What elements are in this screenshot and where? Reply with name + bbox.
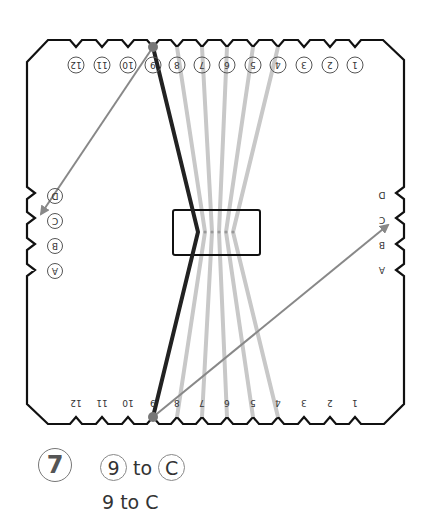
from-slot-label: 9	[107, 457, 119, 479]
step-number: 7	[47, 451, 64, 479]
knot-dots	[204, 231, 235, 234]
left-slot-labels: D C B A	[48, 189, 63, 279]
from-slot-badge: 9	[100, 454, 127, 481]
left-label-b: B	[52, 241, 58, 251]
step-number-badge: 7	[38, 448, 72, 482]
left-label-c: C	[52, 216, 58, 226]
bottom-label-6: 6	[224, 398, 230, 408]
connector-text: to	[133, 457, 152, 479]
to-slot-label: C	[165, 457, 178, 479]
bottom-label-2: 2	[327, 398, 333, 408]
bottom-label-1: 1	[352, 398, 358, 408]
bottom-label-8: 8	[174, 398, 180, 408]
top-label-6: 6	[224, 60, 230, 70]
top-label-4: 4	[275, 60, 281, 70]
top-label-8: 8	[174, 60, 180, 70]
right-label-d: D	[378, 190, 385, 200]
top-label-10: 10	[122, 60, 134, 70]
top-label-12: 12	[70, 60, 81, 70]
step-instruction-circled: 9 to C	[100, 454, 185, 481]
top-label-9: 9	[150, 60, 156, 70]
friendship-bracelet-loom-diagram: 1 2 3 4 5 6 7 8 9 10 11 12 1 2 3 4 5 6 7…	[0, 0, 427, 440]
right-label-a: A	[378, 265, 385, 275]
bottom-label-7: 7	[199, 398, 205, 408]
top-label-5: 5	[250, 60, 256, 70]
top-label-2: 2	[327, 60, 333, 70]
bottom-label-12: 12	[70, 398, 81, 408]
bottom-label-5: 5	[250, 398, 256, 408]
right-label-c: C	[379, 215, 385, 225]
bottom-label-11: 11	[96, 398, 107, 408]
bottom-slot-labels: 1 2 3 4 5 6 7 8 9 10 11 12	[70, 398, 358, 408]
bottom-label-9: 9	[150, 398, 156, 408]
top-label-3: 3	[301, 60, 307, 70]
top-label-7: 7	[199, 60, 205, 70]
left-label-d: D	[51, 191, 58, 201]
right-label-b: B	[379, 240, 385, 250]
top-slot-labels: 1 2 3 4 5 6 7 8 9 10 11 12	[68, 57, 363, 73]
bottom-label-10: 10	[122, 398, 134, 408]
bottom-label-4: 4	[275, 398, 281, 408]
to-slot-badge: C	[158, 454, 185, 481]
top-label-1: 1	[352, 60, 358, 70]
step-instruction-text: 9 to C	[102, 491, 159, 513]
top-label-11: 11	[96, 60, 107, 70]
peg-bottom-9	[148, 412, 158, 422]
left-label-a: A	[51, 266, 58, 276]
center-guide-box	[173, 210, 260, 255]
bottom-label-3: 3	[301, 398, 307, 408]
active-strand	[153, 47, 198, 417]
peg-top-9	[148, 42, 158, 52]
